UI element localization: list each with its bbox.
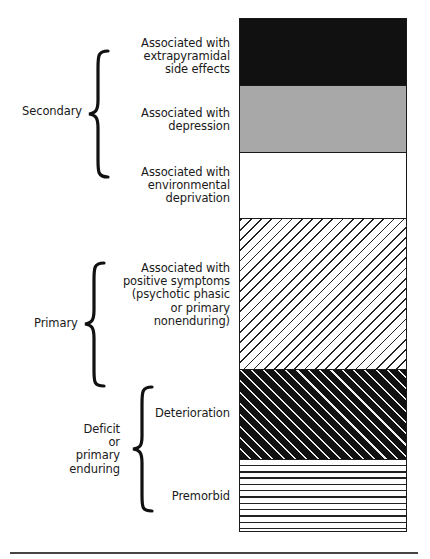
group-label-deficit: Deficit or primary enduring bbox=[60, 423, 120, 476]
segment-positive-symptoms bbox=[240, 218, 406, 369]
segment-label-extrapyramidal: Associated with extrapyramidal side effe… bbox=[100, 37, 230, 77]
segment-deterioration bbox=[240, 369, 406, 459]
segment-extrapyramidal bbox=[240, 19, 406, 85]
segment-depression bbox=[240, 85, 406, 152]
stacked-bar bbox=[239, 18, 407, 532]
segment-premorbid bbox=[240, 459, 406, 532]
group-label-secondary: Secondary bbox=[22, 105, 82, 118]
bottom-rule bbox=[10, 552, 418, 554]
segment-label-deterioration: Deterioration bbox=[100, 407, 230, 420]
segment-label-depression: Associated with depression bbox=[100, 107, 230, 133]
segment-label-environmental: Associated with environmental deprivatio… bbox=[100, 166, 230, 206]
segment-label-positive-symptoms: Associated with positive symptoms (psych… bbox=[100, 262, 230, 328]
segment-label-premorbid: Premorbid bbox=[100, 490, 230, 503]
segment-environmental bbox=[240, 152, 406, 218]
group-label-primary: Primary bbox=[34, 317, 78, 330]
